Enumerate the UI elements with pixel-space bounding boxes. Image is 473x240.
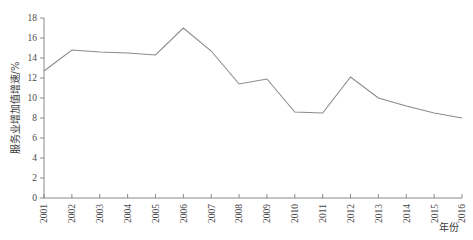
x-tick-label: 2003 bbox=[95, 204, 105, 223]
x-tick-label: 2002 bbox=[67, 204, 77, 223]
y-tick-label: 8 bbox=[32, 113, 37, 123]
x-tick-label: 2005 bbox=[151, 204, 161, 223]
x-tick-label: 2007 bbox=[207, 204, 217, 223]
x-tick-label: 2010 bbox=[290, 204, 300, 223]
x-tick-label: 2012 bbox=[346, 204, 356, 223]
y-tick-label: 4 bbox=[32, 153, 37, 163]
y-tick-label: 16 bbox=[28, 33, 38, 43]
y-axis-title: 服务业增加值增速/% bbox=[9, 62, 21, 155]
y-tick-label: 0 bbox=[32, 193, 37, 203]
x-tick-label: 2015 bbox=[430, 204, 440, 223]
y-tick-label: 14 bbox=[28, 53, 38, 63]
x-tick-label: 2016 bbox=[457, 204, 467, 223]
x-axis-title-group: 年份 bbox=[439, 221, 459, 233]
y-tick-label: 18 bbox=[28, 13, 38, 23]
x-tick-label: 2006 bbox=[179, 204, 189, 223]
x-tick-label: 2004 bbox=[123, 204, 133, 223]
x-tick-label: 2014 bbox=[402, 204, 412, 223]
chart-container: 服务业增加值增速/% 年份 024681012141618 2001200220… bbox=[0, 0, 473, 240]
y-tick-label: 6 bbox=[32, 133, 37, 143]
y-axis-ticks: 024681012141618 bbox=[28, 13, 45, 203]
x-tick-label: 2009 bbox=[262, 204, 272, 223]
y-tick-label: 2 bbox=[32, 173, 37, 183]
x-tick-label: 2008 bbox=[234, 204, 244, 223]
x-tick-label: 2011 bbox=[318, 204, 328, 223]
series-line-service-growth bbox=[44, 28, 462, 118]
y-tick-label: 10 bbox=[28, 93, 38, 103]
y-tick-label: 12 bbox=[28, 73, 38, 83]
x-tick-label: 2001 bbox=[39, 204, 49, 223]
y-axis-title-group: 服务业增加值增速/% bbox=[9, 62, 21, 155]
x-tick-label: 2013 bbox=[374, 204, 384, 223]
line-chart: 服务业增加值增速/% 年份 024681012141618 2001200220… bbox=[0, 0, 473, 240]
x-axis-title: 年份 bbox=[439, 221, 459, 233]
